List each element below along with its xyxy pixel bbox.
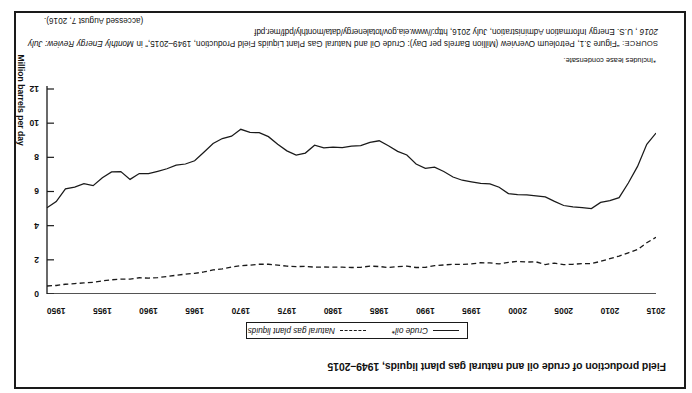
figure-page: Field production of crude oil and natura… <box>0 0 692 393</box>
legend-item-label: Natural gas plant liquids <box>248 326 335 335</box>
legend-item-natural-gas-plant-liquids: Natural gas plant liquids <box>248 326 366 335</box>
y-axis-tick-label: 0 <box>34 289 39 299</box>
x-axis-tick-label: 1980 <box>324 306 343 316</box>
chart-axes <box>47 86 656 294</box>
y-axis-tick-label: 2 <box>34 255 39 265</box>
source-accessed-date: (accessed August 7, 2016). <box>44 16 143 25</box>
figure-frame: Field production of crude oil and natura… <box>14 11 686 389</box>
series-line-natural-gas-plant-liquids <box>47 237 656 286</box>
x-axis-tick-label: 1970 <box>231 306 250 316</box>
y-axis-tick-label: 6 <box>34 187 39 197</box>
source-text-part-1: “Figure 3.1, Petroleum Overview (Million… <box>134 39 620 48</box>
x-axis-tick-label: 1960 <box>139 306 158 316</box>
x-axis-tick-label: 2015 <box>647 306 666 316</box>
x-axis-tick-label: 1995 <box>462 306 481 316</box>
x-axis-tick-label: 2000 <box>508 306 527 316</box>
series-line-crude-oil <box>47 129 656 208</box>
solid-line-icon <box>433 327 459 334</box>
x-axis-tick-label: 1985 <box>370 306 389 316</box>
source-text-part-2: , U.S. Energy Information Administration… <box>448 28 638 37</box>
x-axis-tick-label: 2005 <box>554 306 573 316</box>
source-label: SOURCE: <box>622 39 658 48</box>
y-axis-tick-label: 10 <box>29 118 39 128</box>
x-axis-tick-label: 1990 <box>416 306 435 316</box>
y-axis-tick-label: 4 <box>34 221 39 231</box>
x-axis-tick-label: 2010 <box>601 306 620 316</box>
chart-legend: Crude oil* Natural gas plant liquids <box>246 322 468 339</box>
source-url: http://www.eia.gov/totalenergy/data/mont… <box>254 28 447 37</box>
x-axis-tick-label: 1965 <box>185 306 204 316</box>
dashed-line-icon <box>340 327 366 334</box>
chart-canvas <box>46 84 656 294</box>
x-axis-tick-label: 1950 <box>47 306 66 316</box>
y-axis-tick-label: 12 <box>29 84 39 94</box>
figure-footnote: *Includes lease condensate. <box>564 56 656 65</box>
y-axis-title: Million barrels per day <box>16 55 26 146</box>
page-title: Field production of crude oil and natura… <box>328 361 666 373</box>
x-axis-tick-label: 1975 <box>278 306 297 316</box>
y-axis-tick-label: 8 <box>34 152 39 162</box>
legend-item-label: Crude oil* <box>392 326 428 335</box>
legend-item-crude-oil: Crude oil* <box>392 326 459 335</box>
chart-plot-area: 1950195519601965197019751980198519901995… <box>46 84 656 294</box>
x-axis-tick-label: 1955 <box>93 306 112 316</box>
figure-source: SOURCE: “Figure 3.1, Petroleum Overview … <box>28 26 658 49</box>
